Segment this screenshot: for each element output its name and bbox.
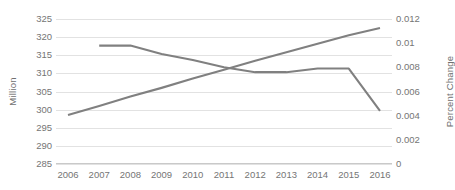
series-line-percent-change: [99, 46, 380, 111]
x-axis-tick-label: 2010: [182, 170, 203, 180]
y-axis-right-title: Percent Change: [444, 42, 455, 142]
series-line-million: [68, 28, 380, 115]
x-axis-ticks: 2006200720082009201020112012201320142015…: [56, 170, 392, 186]
y-axis-right-tick-label: 0.012: [396, 14, 420, 24]
y-axis-left-title: Million: [7, 62, 18, 122]
y-axis-right-tick-label: 0.004: [396, 111, 420, 121]
x-axis-tick-label: 2016: [369, 170, 390, 180]
y-axis-left-tick-label: 300: [36, 105, 52, 115]
plot-area: [56, 19, 392, 164]
x-axis-tick-label: 2015: [338, 170, 359, 180]
y-axis-left-tick-label: 305: [36, 87, 52, 97]
y-axis-right-tick-label: 0.002: [396, 135, 420, 145]
y-axis-left-tick-label: 315: [36, 50, 52, 60]
gridline: [56, 164, 392, 165]
x-axis-tick-label: 2014: [307, 170, 328, 180]
y-axis-right-tick-label: 0.01: [396, 38, 415, 48]
x-axis-tick-label: 2012: [245, 170, 266, 180]
y-axis-right-ticks: 0.0120.010.0080.0060.0040.0020: [396, 0, 430, 190]
y-axis-left-tick-label: 310: [36, 68, 52, 78]
y-axis-left-ticks: 325320315310305300295290285: [24, 0, 52, 190]
y-axis-left-tick-label: 320: [36, 32, 52, 42]
x-axis-tick-label: 2009: [151, 170, 172, 180]
x-axis-tick-label: 2013: [276, 170, 297, 180]
y-axis-left-tick-label: 325: [36, 14, 52, 24]
y-axis-right-tick-label: 0.008: [396, 62, 420, 72]
y-axis-right-tick-label: 0: [396, 159, 401, 169]
series-layer: [56, 19, 392, 164]
y-axis-left-tick-label: 295: [36, 123, 52, 133]
y-axis-left-tick-label: 290: [36, 141, 52, 151]
y-axis-right-tick-label: 0.006: [396, 87, 420, 97]
x-axis-tick-label: 2006: [57, 170, 78, 180]
x-axis-tick-label: 2008: [120, 170, 141, 180]
x-axis-tick-label: 2011: [214, 170, 234, 180]
y-axis-left-tick-label: 285: [36, 159, 52, 169]
x-axis-tick-label: 2007: [89, 170, 110, 180]
